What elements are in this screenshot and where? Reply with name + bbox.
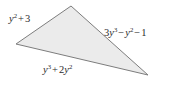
left-label-constant: 3 [25,13,30,24]
right-side-label: 3y3−y2−1 [104,28,147,39]
left-side-label: y2+3 [9,14,30,25]
right-label-constant: 1 [141,27,146,38]
triangle-polygon [16,6,148,75]
triangle-figure: y2+3 3y3−y2−1 y3+2y2 [0,0,175,86]
left-label-operator: + [17,13,25,24]
bottom-label-operator: + [51,64,59,75]
bottom-label-exponent-2: 2 [69,63,72,70]
bottom-side-label: y3+2y2 [43,65,72,76]
